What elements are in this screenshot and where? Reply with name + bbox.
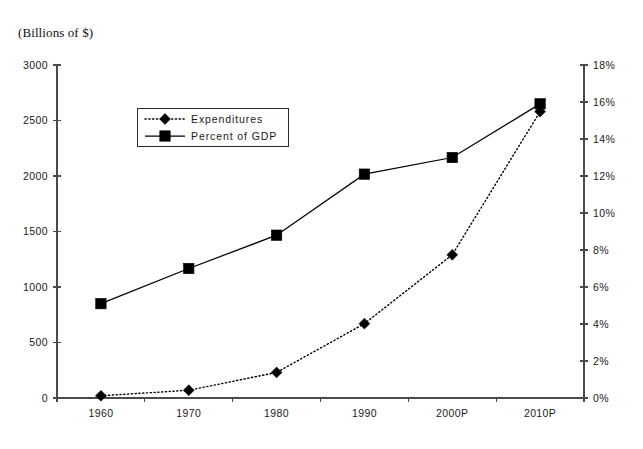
data-point-diamond (183, 385, 194, 396)
y-axis-label-right: 16% (593, 96, 615, 108)
data-point-diamond (359, 318, 370, 329)
x-axis-label: 1980 (264, 407, 289, 419)
legend-label-1: Percent of GDP (191, 130, 277, 142)
y-axis-label-right: 8% (593, 244, 609, 256)
y-axis-label-right: 0% (593, 392, 609, 404)
x-axis-label: 1990 (352, 407, 377, 419)
chart-plot: 0500100015002000250030000%2%4%6%8%10%12%… (0, 0, 643, 449)
y-axis-label-right: 6% (593, 281, 609, 293)
y-axis-label-left: 3000 (23, 59, 48, 71)
data-point-square (535, 99, 545, 109)
y-axis-label-right: 4% (593, 318, 609, 330)
y-axis-label-left: 0 (42, 392, 48, 404)
x-axis-label: 2010P (524, 407, 556, 419)
y-axis-label-left: 2500 (23, 114, 48, 126)
data-point-diamond (271, 367, 282, 378)
data-point-square (96, 298, 106, 308)
data-point-square (447, 152, 457, 162)
y-axis-label-left: 2000 (23, 170, 48, 182)
x-axis-label: 2000P (436, 407, 468, 419)
series-line-expenditures (101, 112, 540, 396)
data-point-square (160, 131, 170, 141)
legend-label-0: Expenditures (191, 113, 263, 125)
data-point-square (184, 263, 194, 273)
y-axis-label-right: 2% (593, 355, 609, 367)
y-axis-label-left: 1000 (23, 281, 48, 293)
y-axis-label-right: 18% (593, 59, 615, 71)
x-axis-label: 1960 (88, 407, 113, 419)
y-axis-label-right: 10% (593, 207, 615, 219)
x-axis-label: 1970 (176, 407, 201, 419)
y-axis-label-right: 14% (593, 133, 615, 145)
y-axis-label-left: 1500 (23, 225, 48, 237)
data-point-square (271, 230, 281, 240)
data-point-diamond (96, 390, 107, 401)
data-point-square (359, 169, 369, 179)
chart-container: (Billions of $) 050010001500200025003000… (0, 0, 643, 449)
y-axis-label-right: 12% (593, 170, 615, 182)
y-axis-label-left: 500 (29, 336, 48, 348)
